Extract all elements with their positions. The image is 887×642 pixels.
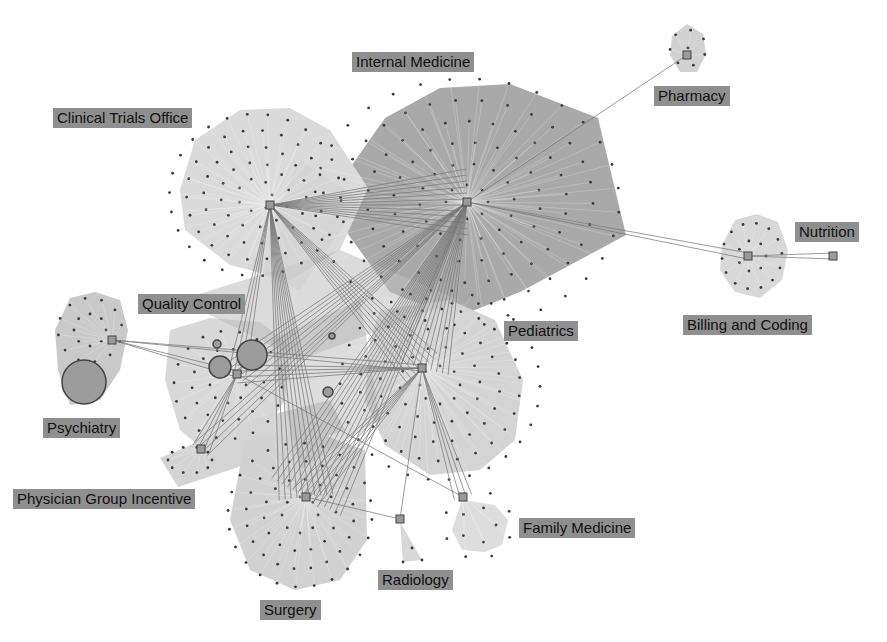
member-node xyxy=(367,107,370,110)
member-node xyxy=(506,104,509,107)
member-node xyxy=(504,455,507,458)
member-node xyxy=(319,173,322,176)
member-node xyxy=(468,120,471,123)
member-node xyxy=(440,308,443,311)
member-node xyxy=(508,510,511,513)
member-node xyxy=(311,526,314,529)
member-node xyxy=(477,317,480,320)
member-node xyxy=(266,420,269,423)
member-node xyxy=(77,317,80,320)
member-node xyxy=(439,232,442,235)
physician-group-incentive-hub-node[interactable] xyxy=(197,445,205,453)
member-node xyxy=(400,450,403,453)
member-node xyxy=(348,344,351,347)
family-medicine-label: Family Medicine xyxy=(519,518,635,538)
member-node xyxy=(234,437,237,440)
member-node xyxy=(343,178,346,181)
member-node xyxy=(468,474,471,477)
member-node xyxy=(300,262,303,265)
internal-medicine-hub-node[interactable] xyxy=(463,198,471,206)
center-small-2 xyxy=(329,333,335,339)
member-node xyxy=(241,274,244,277)
radiology-hub-node[interactable] xyxy=(396,515,404,523)
member-node xyxy=(617,187,620,190)
pediatrics-hub-node[interactable] xyxy=(418,364,426,372)
member-node xyxy=(367,537,370,540)
member-node xyxy=(227,509,230,512)
member-node xyxy=(419,83,422,86)
member-node xyxy=(363,259,366,262)
member-node xyxy=(451,420,454,423)
member-node xyxy=(304,128,307,131)
member-node xyxy=(77,340,80,343)
member-node xyxy=(759,267,762,270)
member-node xyxy=(242,130,245,133)
member-node xyxy=(566,262,569,265)
member-node xyxy=(529,423,532,426)
member-node xyxy=(331,578,334,581)
member-node xyxy=(491,355,494,358)
member-node xyxy=(267,449,270,452)
member-node xyxy=(286,119,289,122)
member-node xyxy=(84,297,87,300)
member-node xyxy=(539,207,542,210)
member-node xyxy=(197,230,200,233)
nutrition-hub-node[interactable] xyxy=(829,252,837,260)
member-node xyxy=(177,363,180,366)
member-node xyxy=(100,317,103,320)
member-node xyxy=(369,499,372,502)
member-node xyxy=(734,282,737,285)
quality-control-hub-node[interactable] xyxy=(233,370,241,378)
member-node xyxy=(351,158,354,161)
member-node xyxy=(371,453,374,456)
member-node xyxy=(549,277,552,280)
member-node xyxy=(262,553,265,556)
member-node xyxy=(471,294,474,297)
member-node xyxy=(418,457,421,460)
member-node xyxy=(510,273,513,276)
member-node xyxy=(390,301,393,304)
clinical-trials-office-hub-node[interactable] xyxy=(266,201,274,209)
member-node xyxy=(230,151,233,154)
member-node xyxy=(120,324,123,327)
member-node xyxy=(393,194,396,197)
family-medicine-hub-node[interactable] xyxy=(459,493,467,501)
member-node xyxy=(492,169,495,172)
member-node xyxy=(539,308,542,311)
member-node xyxy=(468,433,471,436)
member-node xyxy=(383,124,386,127)
member-node xyxy=(611,163,614,166)
member-node xyxy=(171,451,174,454)
member-node xyxy=(330,158,333,161)
member-node xyxy=(599,141,602,144)
member-node xyxy=(508,82,511,85)
member-node xyxy=(755,222,758,225)
member-node xyxy=(427,328,430,331)
pharmacy-hub-node[interactable] xyxy=(683,51,691,59)
billing-and-coding-hub-node[interactable] xyxy=(744,252,752,260)
member-node xyxy=(195,160,198,163)
member-node xyxy=(337,177,340,180)
psychiatry-hub-node[interactable] xyxy=(108,336,116,344)
member-node xyxy=(373,170,376,173)
member-node xyxy=(276,563,279,566)
qc-big-2 xyxy=(209,356,231,378)
qc-small-1 xyxy=(213,340,221,348)
surgery-hub-node[interactable] xyxy=(302,493,310,501)
member-node xyxy=(489,492,492,495)
member-node xyxy=(310,157,313,160)
member-node xyxy=(191,386,194,389)
member-node xyxy=(464,555,467,558)
pharmacy-label: Pharmacy xyxy=(654,86,730,106)
member-node xyxy=(487,279,490,282)
member-node xyxy=(478,78,481,81)
member-node xyxy=(479,342,482,345)
psychiatry-big xyxy=(62,360,106,404)
psychiatry-label: Psychiatry xyxy=(43,418,120,438)
member-node xyxy=(284,252,287,255)
member-node xyxy=(759,243,762,246)
member-node xyxy=(239,474,242,477)
member-node xyxy=(211,244,214,247)
member-node xyxy=(497,372,500,375)
member-node xyxy=(445,537,448,540)
